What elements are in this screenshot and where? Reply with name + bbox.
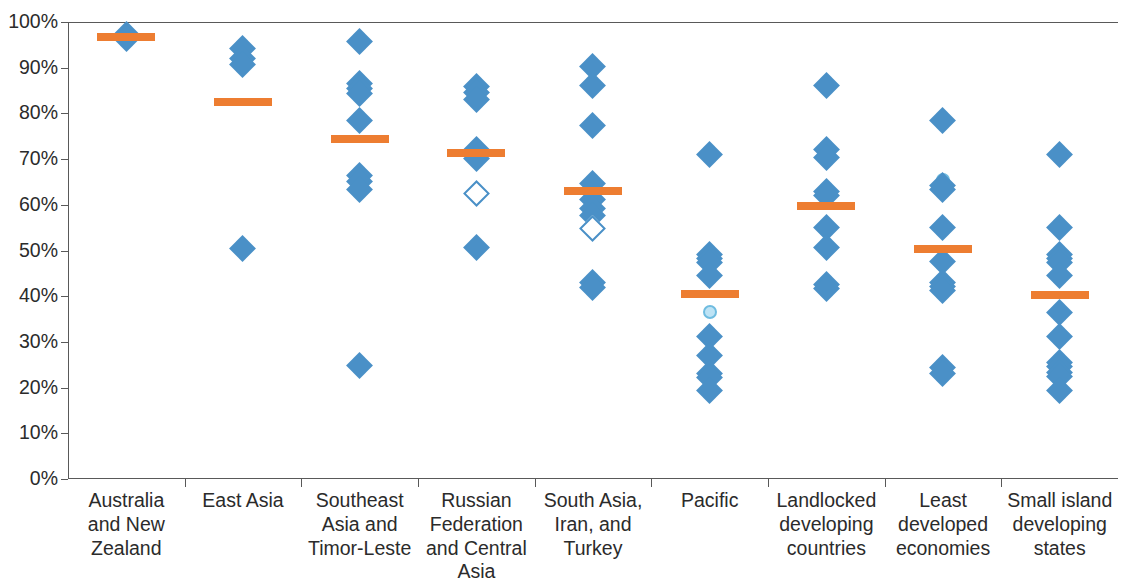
y-axis-tick-label: 60%: [6, 195, 58, 215]
x-axis-category-label-line: Pacific: [653, 489, 766, 513]
x-axis-category-label: South Asia,Iran, andTurkey: [535, 489, 652, 585]
data-point-diamond: [346, 352, 373, 379]
y-axis-tick-mark: [61, 388, 68, 389]
x-axis-category-label-line: states: [1003, 537, 1116, 561]
y-axis-tick-mark: [61, 479, 68, 480]
x-axis-tick-mark: [535, 479, 536, 487]
series-column: [418, 22, 535, 479]
x-axis-category-label-line: Asia and: [303, 513, 416, 537]
x-axis-category-label-line: Iran, and: [537, 513, 650, 537]
data-point-diamond: [930, 214, 957, 241]
mean-marker: [97, 33, 155, 41]
x-axis-category-label: Leastdevelopedeconomies: [885, 489, 1002, 585]
x-axis-category-label-line: Russian: [420, 489, 533, 513]
data-point-diamond: [1046, 141, 1073, 168]
x-axis-category-label-line: Small island: [1003, 489, 1116, 513]
x-axis-tick-mark: [185, 479, 186, 487]
x-axis-category-label-line: Zealand: [70, 537, 183, 561]
x-axis-category-label: Small islanddevelopingstates: [1001, 489, 1118, 585]
data-point-diamond: [696, 141, 723, 168]
y-axis-tick-label: 20%: [6, 378, 58, 398]
x-axis-category-label-line: Landlocked: [770, 489, 883, 513]
y-axis-tick-label: 90%: [6, 58, 58, 78]
x-axis-category-label: SoutheastAsia andTimor-Leste: [301, 489, 418, 585]
mean-marker: [564, 187, 622, 195]
series-column: [651, 22, 768, 479]
x-axis-category-label-line: and Central: [420, 537, 533, 561]
data-point-diamond: [580, 112, 607, 139]
y-axis-tick-mark: [61, 433, 68, 434]
y-axis-tick-mark: [61, 205, 68, 206]
mean-marker: [681, 290, 739, 298]
y-axis-tick-mark: [61, 251, 68, 252]
mean-marker: [797, 202, 855, 210]
x-axis-category-label-line: and New: [70, 513, 183, 537]
data-point-diamond: [1046, 323, 1073, 350]
data-point-circle: [703, 305, 717, 319]
y-axis-tick-mark: [61, 68, 68, 69]
data-point-diamond: [346, 28, 373, 55]
x-axis-category-label-line: Federation: [420, 513, 533, 537]
x-axis-category-label-line: economies: [887, 537, 1000, 561]
x-axis-category-label-line: developing: [1003, 513, 1116, 537]
x-axis-category-label: RussianFederationand CentralAsia: [418, 489, 535, 585]
series-column: [1001, 22, 1118, 479]
data-point-diamond: [813, 73, 840, 100]
mean-marker: [214, 98, 272, 106]
x-axis-category-label-line: Southeast: [303, 489, 416, 513]
y-axis-tick-label: 0%: [6, 469, 58, 489]
y-axis-tick-label: 40%: [6, 286, 58, 306]
mean-marker: [914, 245, 972, 253]
x-axis-category-label: Pacific: [651, 489, 768, 585]
y-axis-tick-mark: [61, 22, 68, 23]
y-axis-tick-label: 50%: [6, 241, 58, 261]
x-axis-labels: Australiaand NewZealandEast AsiaSoutheas…: [68, 489, 1118, 585]
mean-marker: [1031, 291, 1089, 299]
x-axis-category-label-line: Asia: [420, 560, 533, 584]
y-axis-tick-label: 10%: [6, 424, 58, 444]
data-point-diamond: [1046, 299, 1073, 326]
y-axis-tick-mark: [61, 342, 68, 343]
x-axis-tick-mark: [768, 479, 769, 487]
data-point-diamond: [346, 107, 373, 134]
x-axis-category-label-line: East Asia: [187, 489, 300, 513]
x-axis-category-label-line: Australia: [70, 489, 183, 513]
x-axis-category-label-line: Timor-Leste: [303, 537, 416, 561]
series-column: [68, 22, 185, 479]
y-axis-tick-mark: [61, 113, 68, 114]
mean-marker: [447, 149, 505, 157]
x-axis-category-label: Australiaand NewZealand: [68, 489, 185, 585]
y-axis-tick-label: 70%: [6, 149, 58, 169]
data-point-diamond: [230, 235, 257, 262]
y-axis-tick-label: 30%: [6, 332, 58, 352]
data-point-diamond-hollow: [463, 180, 490, 207]
series-column: [185, 22, 302, 479]
y-axis-tick-mark: [61, 296, 68, 297]
series-column: [885, 22, 1002, 479]
x-axis-tick-mark: [1001, 479, 1002, 487]
x-axis-category-label: East Asia: [185, 489, 302, 585]
y-axis-tick-mark: [61, 159, 68, 160]
x-axis-tick-mark: [885, 479, 886, 487]
x-axis-tick-mark: [301, 479, 302, 487]
x-axis-category-label-line: countries: [770, 537, 883, 561]
x-axis-tick-mark: [418, 479, 419, 487]
y-axis-tick-label: 80%: [6, 104, 58, 124]
scatter-chart: 0%10%20%30%40%50%60%70%80%90%100% Austra…: [0, 0, 1123, 585]
x-axis-category-label-line: Least: [887, 489, 1000, 513]
series-column: [768, 22, 885, 479]
y-axis-tick-label: 100%: [6, 12, 58, 32]
x-axis-category-label-line: Turkey: [537, 537, 650, 561]
x-axis-category-label-line: South Asia,: [537, 489, 650, 513]
data-point-diamond: [463, 234, 490, 261]
x-axis-category-label: Landlockeddevelopingcountries: [768, 489, 885, 585]
data-point-diamond: [813, 234, 840, 261]
x-axis-category-label-line: developed: [887, 513, 1000, 537]
data-point-diamond: [1046, 214, 1073, 241]
series-column: [301, 22, 418, 479]
y-axis: 0%10%20%30%40%50%60%70%80%90%100%: [0, 0, 58, 585]
x-axis-category-label-line: developing: [770, 513, 883, 537]
mean-marker: [331, 135, 389, 143]
data-point-diamond: [930, 107, 957, 134]
x-axis-tick-mark: [651, 479, 652, 487]
